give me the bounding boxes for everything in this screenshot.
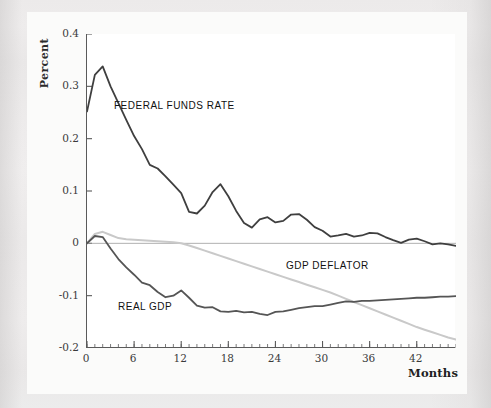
series-line-gdp-deflator: [87, 232, 456, 340]
x-axis-tick-label: 18: [215, 352, 239, 364]
x-axis-tick-label: 24: [262, 352, 286, 364]
figure-page: Percent 0.40.30.20.10-0.1-0.2 0612182430…: [0, 0, 491, 408]
x-axis-tick-label: 42: [404, 352, 428, 364]
series-label-federal-funds-rate: FEDERAL FUNDS RATE: [114, 100, 235, 111]
x-axis-tick-label: 36: [357, 352, 381, 364]
series-label-real-gdp: REAL GDP: [118, 301, 172, 312]
x-axis-tick-label: 30: [310, 352, 334, 364]
x-axis-title: Months: [408, 366, 458, 380]
x-axis-tick-label: 6: [121, 352, 145, 364]
y-axis-tick-label: 0.1: [49, 184, 79, 196]
y-axis-tick-label: 0.2: [49, 132, 79, 144]
x-axis-minor-ticks: [87, 344, 456, 348]
y-axis-tick-label: 0.3: [49, 79, 79, 91]
x-axis-tick-label: 0: [74, 352, 98, 364]
series-label-gdp-deflator: GDP DEFLATOR: [286, 260, 369, 271]
y-axis-tick-label: 0.4: [49, 27, 79, 39]
series-line-federal-funds-rate: [87, 66, 456, 246]
y-axis-tick-label: 0: [49, 236, 79, 248]
y-axis-ticks: [87, 34, 92, 348]
x-axis-tick-label: 12: [168, 352, 192, 364]
y-axis-tick-label: -0.1: [49, 289, 79, 301]
